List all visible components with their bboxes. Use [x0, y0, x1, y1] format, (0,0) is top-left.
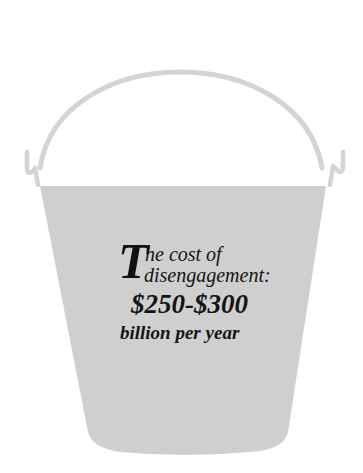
caption-line-4: billion per year — [120, 323, 239, 343]
caption-line-2: disengagement: — [144, 265, 271, 285]
right-hook-icon — [330, 152, 343, 185]
bucket-illustration — [0, 0, 363, 473]
bucket-handle — [40, 72, 322, 168]
bucket-body — [40, 186, 326, 455]
caption-line-1: he cost of — [145, 244, 222, 264]
left-hook-icon — [27, 152, 38, 185]
cost-amount: $250-$300 — [131, 290, 248, 318]
